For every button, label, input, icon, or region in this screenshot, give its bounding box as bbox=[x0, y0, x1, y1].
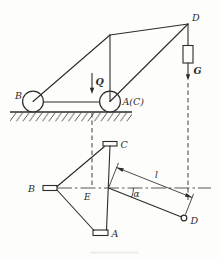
side-view: B A(C) D Q G bbox=[10, 12, 202, 200]
label-length-l: l bbox=[155, 170, 158, 180]
dimension-l bbox=[109, 163, 194, 215]
member-ac-d bbox=[110, 24, 188, 102]
witness-line-start bbox=[109, 163, 119, 188]
ground-hatching bbox=[10, 113, 132, 122]
link-b-c bbox=[57, 147, 105, 187]
slider-b bbox=[43, 186, 57, 191]
label-force-g: G bbox=[194, 65, 202, 76]
force-arrow-q bbox=[90, 74, 94, 95]
label-d-top: D bbox=[191, 12, 200, 23]
label-force-q: Q bbox=[96, 76, 105, 87]
figure-canvas: B A(C) D Q G B E C A bbox=[0, 0, 220, 258]
label-c: C bbox=[121, 139, 129, 150]
slider-a bbox=[93, 230, 108, 236]
label-ac: A(C) bbox=[122, 96, 145, 107]
label-angle-alpha: α bbox=[134, 189, 140, 199]
label-a: A bbox=[111, 228, 119, 239]
plan-view: B E C A D l α bbox=[27, 139, 211, 239]
label-b-bottom: B bbox=[27, 183, 35, 194]
force-arrow-g bbox=[186, 63, 190, 81]
rod-ed bbox=[109, 188, 185, 218]
faint-caption-remnant bbox=[90, 252, 138, 254]
member-apex-d bbox=[110, 24, 188, 35]
label-d-bottom: D bbox=[190, 215, 199, 226]
weight-block bbox=[183, 46, 193, 64]
member-b-apex bbox=[33, 35, 110, 102]
label-b-top: B bbox=[14, 90, 22, 101]
pivot-d bbox=[181, 215, 187, 221]
mechanism-diagram: B A(C) D Q G B E C A bbox=[0, 0, 220, 258]
label-e: E bbox=[83, 192, 91, 202]
slider-c bbox=[103, 142, 117, 147]
